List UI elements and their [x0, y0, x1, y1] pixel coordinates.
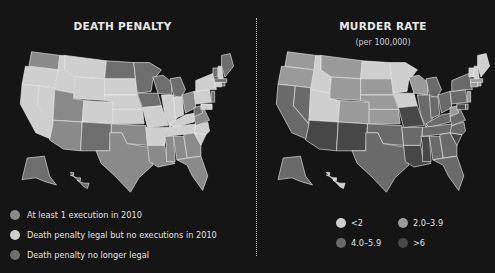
legend-dot-icon — [398, 218, 408, 228]
death-penalty-title: DEATH PENALTY — [0, 20, 245, 32]
state-ak — [22, 156, 56, 185]
state-ms — [421, 136, 431, 161]
state-sd — [361, 79, 394, 95]
state-nd — [105, 61, 136, 79]
state-ri — [222, 82, 225, 86]
state-ar — [402, 127, 423, 145]
state-vt — [469, 68, 474, 77]
state-de — [466, 104, 469, 109]
state-az — [306, 120, 339, 151]
state-in — [173, 97, 183, 119]
legend-label: At least 1 execution in 2010 — [27, 210, 142, 220]
legend-item-not-legal: Death penalty no longer legal — [10, 245, 217, 265]
state-wi — [409, 75, 428, 95]
state-vt — [213, 68, 218, 77]
state-oh — [182, 91, 196, 113]
legend-item-execution: At least 1 execution in 2010 — [10, 205, 217, 225]
state-ms — [165, 136, 175, 161]
murder-rate-subtitle: (per 100,000) — [256, 38, 495, 47]
state-fl — [177, 156, 208, 190]
state-nj — [211, 91, 214, 102]
state-co — [82, 100, 113, 123]
legend-dot-icon — [10, 250, 20, 260]
state-ar — [146, 127, 167, 145]
murder-rate-map — [266, 50, 495, 210]
state-wy — [74, 77, 105, 100]
legend-item-gt6: >6 — [398, 238, 460, 248]
state-ks — [369, 109, 400, 123]
legend-item-lt2: <2 — [336, 218, 398, 228]
state-wi — [153, 75, 172, 95]
legend-item-legal-no-execution: Death penalty legal but no executions in… — [10, 225, 217, 245]
state-pa — [450, 90, 467, 104]
legend-dot-icon — [10, 210, 20, 220]
state-me — [478, 54, 490, 77]
state-co — [338, 100, 369, 123]
state-hi — [326, 172, 345, 188]
death-penalty-legend: At least 1 execution in 2010 Death penal… — [10, 205, 217, 265]
legend-label: 2.0–3.9 — [413, 218, 443, 228]
state-md — [457, 104, 466, 109]
legend-label: >6 — [413, 238, 425, 248]
state-ak — [278, 156, 312, 185]
legend-dot-icon — [10, 230, 20, 240]
legend-item-2-to-4: 2.0–3.9 — [398, 218, 460, 228]
state-ks — [113, 109, 144, 123]
legend-label: Death penalty no longer legal — [27, 250, 149, 260]
legend-dot-icon — [336, 238, 346, 248]
state-ma — [471, 79, 483, 83]
state-ct — [471, 82, 478, 87]
state-ri — [478, 82, 481, 86]
death-penalty-panel: DEATH PENALTY At least 1 execution in 20… — [0, 0, 245, 273]
state-nj — [467, 91, 470, 102]
state-nd — [361, 61, 392, 79]
state-sd — [105, 79, 138, 95]
state-ct — [215, 82, 222, 87]
murder-rate-title: MURDER RATE — [256, 20, 495, 32]
state-wy — [330, 77, 361, 100]
legend-label: Death penalty legal but no executions in… — [27, 230, 217, 240]
state-pa — [194, 90, 211, 104]
state-fl — [433, 156, 464, 190]
legend-dot-icon — [336, 218, 346, 228]
murder-rate-legend: <2 2.0–3.9 4.0–5.9 >6 — [336, 213, 486, 253]
state-me — [222, 54, 234, 77]
state-oh — [438, 91, 452, 113]
state-hi — [70, 172, 89, 188]
state-nm — [81, 122, 112, 151]
legend-label: 4.0–5.9 — [351, 238, 381, 248]
state-nm — [337, 122, 368, 151]
state-az — [50, 120, 83, 151]
legend-label: <2 — [351, 218, 363, 228]
state-ma — [215, 79, 227, 83]
legend-dot-icon — [398, 238, 408, 248]
state-md — [201, 104, 210, 109]
murder-rate-panel: MURDER RATE (per 100,000) <2 2.0–3.9 4.0… — [256, 0, 480, 273]
legend-item-4-to-6: 4.0–5.9 — [336, 238, 398, 248]
state-de — [210, 104, 213, 109]
state-in — [429, 97, 439, 119]
death-penalty-map — [10, 50, 240, 210]
